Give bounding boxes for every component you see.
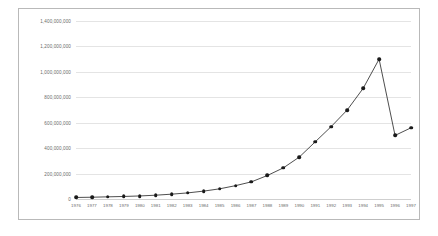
- x-axis-tick-label: 1983: [183, 203, 193, 208]
- series-polyline: [76, 59, 411, 197]
- data-point-marker: [250, 180, 254, 184]
- data-point-marker: [170, 192, 174, 196]
- y-axis-tick-label: 1,400,000,000: [40, 19, 71, 24]
- gridline: [76, 199, 411, 200]
- y-axis-tick-label: 1,200,000,000: [40, 44, 71, 49]
- x-axis-tick-label: 1997: [406, 203, 416, 208]
- data-point-marker: [234, 184, 238, 188]
- x-axis-tick-label: 1992: [326, 203, 336, 208]
- x-axis-tick-label: 1989: [278, 203, 288, 208]
- x-axis-tick-label: 1976: [71, 203, 81, 208]
- data-point-marker: [393, 134, 397, 138]
- data-point-marker: [313, 140, 317, 144]
- data-point-marker: [186, 191, 190, 195]
- data-point-marker: [329, 125, 333, 129]
- data-point-marker: [345, 108, 349, 112]
- x-axis-tick-label: 1987: [247, 203, 257, 208]
- data-point-marker: [90, 195, 94, 199]
- y-axis-tick-label: 400,000,000: [44, 146, 71, 151]
- y-axis-tick-label: 0: [68, 197, 71, 202]
- chart-container: 1,400,000,0001,200,000,0001,000,000,0008…: [18, 8, 420, 220]
- data-point-marker: [409, 126, 413, 130]
- data-point-marker: [377, 57, 381, 61]
- data-point-marker: [361, 87, 365, 91]
- data-point-marker: [154, 193, 158, 197]
- data-point-marker: [282, 166, 286, 170]
- data-point-marker: [106, 195, 110, 199]
- x-axis-tick-label: 1996: [390, 203, 400, 208]
- x-axis-tick-label: 1990: [294, 203, 304, 208]
- y-axis-tick-label: 1,000,000,000: [40, 69, 71, 74]
- y-axis-tick-label: 600,000,000: [44, 120, 71, 125]
- data-point-marker: [202, 189, 206, 193]
- data-point-marker: [298, 155, 302, 159]
- chart-plot-wrapper: 1,400,000,0001,200,000,0001,000,000,0008…: [19, 9, 419, 219]
- data-point-marker: [122, 195, 126, 199]
- x-axis-tick-label: 1995: [374, 203, 384, 208]
- x-axis-tick-label: 1979: [119, 203, 129, 208]
- x-axis-tick-label: 1980: [135, 203, 145, 208]
- data-point-marker: [266, 174, 270, 178]
- y-axis-tick-label: 800,000,000: [44, 95, 71, 100]
- x-axis-tick-label: 1981: [151, 203, 161, 208]
- x-axis-tick-label: 1985: [215, 203, 225, 208]
- data-point-marker: [218, 187, 222, 191]
- x-axis-tick-label: 1994: [358, 203, 368, 208]
- plot-area: 1,400,000,0001,200,000,0001,000,000,0008…: [76, 21, 411, 199]
- x-axis-tick-label: 1978: [103, 203, 113, 208]
- x-axis-tick-label: 1977: [87, 203, 97, 208]
- series-line-layer: [76, 21, 411, 199]
- x-axis-tick-label: 1982: [167, 203, 177, 208]
- x-axis-tick-label: 1984: [199, 203, 209, 208]
- x-axis-tick-label: 1988: [263, 203, 273, 208]
- x-axis-tick-label: 1993: [342, 203, 352, 208]
- x-axis-tick-label: 1986: [231, 203, 241, 208]
- data-point-marker: [74, 196, 78, 200]
- x-axis-tick-label: 1991: [310, 203, 320, 208]
- y-axis-tick-label: 200,000,000: [44, 171, 71, 176]
- data-point-marker: [138, 194, 142, 198]
